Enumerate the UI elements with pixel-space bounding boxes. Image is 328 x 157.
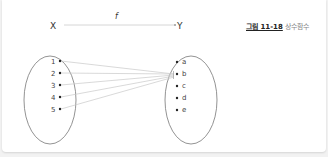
function-label: f bbox=[115, 12, 119, 21]
codomain-points bbox=[176, 61, 178, 111]
domain-element: 3 bbox=[51, 82, 55, 90]
codomain-label: Y bbox=[176, 21, 183, 31]
caption-title: 상수함수 bbox=[285, 23, 309, 31]
caption-number: 그림 11-18 bbox=[246, 23, 283, 31]
codomain-element: e bbox=[182, 106, 186, 114]
figure-caption: 그림 11-18상수함수 bbox=[246, 21, 309, 31]
codomain-element: c bbox=[182, 82, 186, 90]
domain-element: 1 bbox=[51, 58, 55, 66]
domain-element: 4 bbox=[51, 94, 56, 102]
domain-label: X bbox=[50, 21, 56, 31]
codomain-element: a bbox=[182, 58, 186, 66]
figure-card: X Y f 1 2 3 4 5 a b c d e 그림 11-18상수함수 bbox=[2, 0, 326, 152]
domain-points bbox=[59, 60, 61, 110]
domain-set-ellipse bbox=[24, 56, 76, 144]
arrow-head-icon bbox=[174, 24, 176, 26]
codomain-set-ellipse bbox=[165, 56, 217, 144]
mapping-lines bbox=[61, 61, 174, 109]
domain-element: 5 bbox=[51, 106, 55, 114]
codomain-element: b bbox=[182, 70, 187, 78]
codomain-element: d bbox=[182, 94, 186, 102]
domain-element: 2 bbox=[51, 70, 55, 78]
